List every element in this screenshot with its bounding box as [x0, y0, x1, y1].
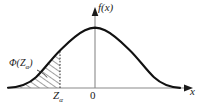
- density-curve: [8, 28, 180, 88]
- figure-canvas: [0, 0, 208, 109]
- y-axis-label: f(x): [98, 2, 113, 13]
- origin-tick-label: 0: [90, 90, 96, 101]
- tail-area-label-base: Φ(Z: [9, 57, 26, 68]
- threshold-label-subscript: α: [59, 96, 63, 104]
- x-axis-label: x: [190, 86, 195, 97]
- tail-area-label: Φ(Zα): [9, 58, 33, 71]
- y-axis: [92, 7, 99, 88]
- threshold-tick-label: Zα: [53, 90, 63, 104]
- tail-area-label-close: ): [29, 57, 32, 68]
- normal-distribution-figure: f(x) x 0 Φ(Zα) Zα: [0, 0, 208, 109]
